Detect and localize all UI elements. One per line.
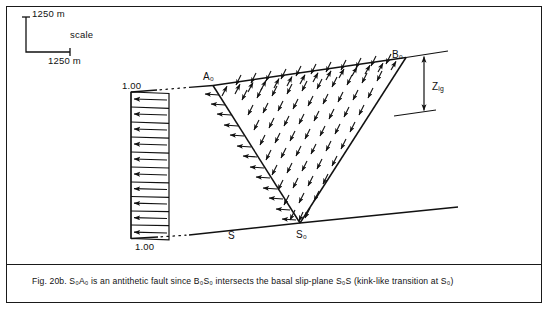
velocity-top-value: 1.00 — [122, 80, 141, 91]
scale-title-label: scale — [70, 29, 93, 40]
zig-subscript: ig — [438, 85, 444, 92]
top-surface-a0-b0 — [213, 58, 406, 86]
point-label-s: S — [228, 230, 235, 241]
zig-dimension-label: Zig — [432, 81, 444, 92]
velocity-bottom-value: 1.00 — [135, 241, 154, 252]
fault-line-a0-s0 — [213, 86, 300, 224]
scale-horizontal-label: 1250 m — [48, 55, 81, 66]
upper-surface-line — [131, 86, 213, 93]
surface-shear-arrows — [222, 61, 396, 96]
figure-container: 1250 m 1250 m scale A₀ B₀ S₀ S Zig 1.00 … — [0, 0, 549, 310]
scale-bar — [22, 17, 70, 56]
figure-caption: Fig. 20b. S₀A₀ is an antithetic fault si… — [32, 276, 532, 286]
scale-vertical-label: 1250 m — [32, 8, 65, 19]
velocity-profile-arrows — [134, 99, 167, 233]
point-label-b0: B₀ — [392, 49, 403, 60]
point-label-a0: A₀ — [203, 71, 214, 82]
diagram-canvas — [0, 0, 549, 310]
fault-shear-arrows — [205, 94, 296, 220]
point-label-s0: S₀ — [296, 229, 307, 240]
